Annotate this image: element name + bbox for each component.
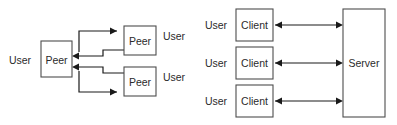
node-client-2[interactable]: Client — [236, 47, 273, 79]
connector-peer-top-to-peer-left — [72, 50, 124, 59]
node-peer-bottom-label: Peer — [129, 76, 152, 88]
node-peer-top-label: Peer — [129, 35, 152, 47]
user-label-client-3: User — [205, 95, 228, 107]
node-peer-bottom[interactable]: Peer — [124, 67, 156, 96]
connector-peer-left-to-peer-bottom — [79, 71, 117, 95]
connector-client-1-server — [275, 22, 343, 29]
connector-client-2-server — [275, 60, 343, 67]
arrow-head-icon — [110, 28, 117, 35]
node-client-1-label: Client — [241, 19, 268, 31]
node-server-label: Server — [349, 57, 380, 69]
arrow-head-icon — [275, 22, 282, 29]
node-peer-top[interactable]: Peer — [124, 26, 156, 55]
user-label-peer-top: User — [163, 30, 186, 42]
node-server[interactable]: Server — [343, 9, 385, 117]
network-topology-figure: Peer Peer Peer User User User — [0, 0, 397, 125]
arrow-head-icon — [275, 60, 282, 67]
arrow-head-icon — [336, 22, 343, 29]
node-peer-left[interactable]: Peer — [41, 41, 72, 77]
connector-peer-bottom-to-peer-left — [72, 64, 124, 73]
user-label-peer-bottom: User — [163, 71, 186, 83]
user-label-peer-left: User — [9, 54, 32, 66]
client-server-diagram: Client Client Client Server User User Us… — [205, 9, 385, 117]
connector-peer-left-to-peer-top — [79, 28, 117, 52]
arrow-head-icon — [72, 64, 79, 71]
arrow-head-icon — [336, 98, 343, 105]
diagram-canvas: Peer Peer Peer User User User — [0, 0, 397, 125]
user-label-client-1: User — [205, 19, 228, 31]
node-client-1[interactable]: Client — [236, 9, 273, 41]
peer-to-peer-diagram: Peer Peer Peer User User User — [9, 26, 186, 96]
node-client-3-label: Client — [241, 95, 268, 107]
arrow-head-icon — [336, 60, 343, 67]
arrow-head-icon — [275, 98, 282, 105]
user-label-client-2: User — [205, 57, 228, 69]
arrow-head-icon — [110, 89, 117, 96]
arrow-head-icon — [72, 53, 79, 60]
connector-client-3-server — [275, 98, 343, 105]
node-peer-left-label: Peer — [45, 54, 68, 66]
node-client-2-label: Client — [241, 57, 268, 69]
node-client-3[interactable]: Client — [236, 85, 273, 117]
